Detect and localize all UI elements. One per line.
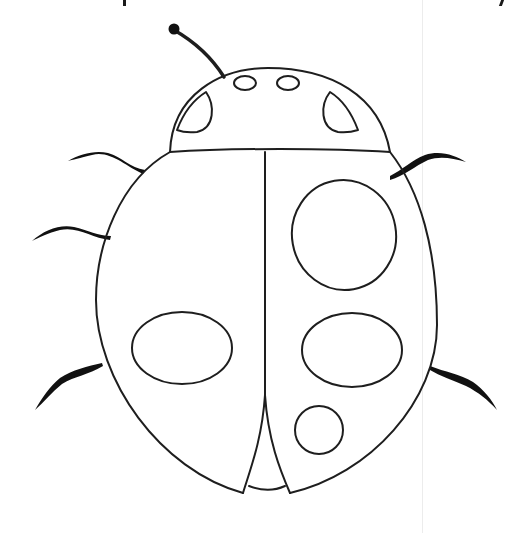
leg-left-middle xyxy=(32,226,111,241)
ladybug-svg xyxy=(0,0,522,533)
head-spot-right xyxy=(323,92,358,132)
spot-right-small xyxy=(295,406,343,454)
head xyxy=(170,68,390,152)
head-outline xyxy=(170,68,390,152)
tail-arc xyxy=(249,486,285,490)
wing-split-left xyxy=(243,152,265,493)
leg-left-top xyxy=(68,152,145,174)
leg-left-bottom xyxy=(35,363,103,410)
spot-right-large xyxy=(283,172,405,298)
spot-left-wing xyxy=(132,312,232,384)
ladybug-drawing xyxy=(0,0,522,533)
head-spot-left xyxy=(177,92,212,132)
leg-right-top xyxy=(390,153,466,180)
wing-split-right xyxy=(265,395,290,493)
spot-right-middle xyxy=(302,313,402,387)
wing-spots xyxy=(132,172,405,454)
antenna xyxy=(169,24,225,78)
head-spot-top-right xyxy=(277,76,299,90)
head-spot-top-left xyxy=(234,76,256,90)
leg-right-bottom xyxy=(430,366,497,410)
